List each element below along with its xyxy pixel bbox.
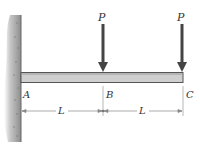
load-label-c: P	[176, 11, 185, 24]
load-arrow-b: P	[97, 11, 108, 72]
load-arrow-c: P	[176, 11, 187, 72]
dimension-label-bc: L	[138, 105, 146, 116]
dimension-node-b	[102, 110, 105, 113]
point-label-c: C	[186, 89, 194, 100]
load-label-b: P	[97, 11, 106, 24]
point-label-b: B	[105, 89, 113, 100]
fixed-wall-support	[4, 15, 21, 142]
dimension-label-ab: L	[57, 105, 65, 116]
beam-diagram: P P A B C L L	[0, 0, 200, 147]
beam	[21, 73, 183, 83]
point-label-a: A	[22, 89, 30, 100]
